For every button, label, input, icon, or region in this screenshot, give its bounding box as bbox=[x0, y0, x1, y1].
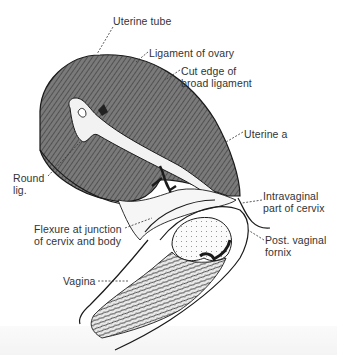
label-flexure: Flexure at junction of cervix and body bbox=[34, 223, 122, 247]
label-ligament-of-ovary: Ligament of ovary bbox=[149, 47, 234, 59]
label-uterine-artery: Uterine a bbox=[244, 128, 288, 140]
label-post-vaginal-fornix: Post. vaginal fornix bbox=[265, 234, 326, 258]
label-cut-edge-broad-ligament: Cut edge of broad ligament bbox=[181, 65, 252, 89]
label-round-ligament: Round lig. bbox=[13, 172, 44, 196]
label-intravaginal-cervix: Intravaginal part of cervix bbox=[263, 190, 325, 214]
anatomy-figure: Uterine tube Ligament of ovary Cut edge … bbox=[0, 0, 337, 355]
label-uterine-tube: Uterine tube bbox=[113, 15, 171, 27]
vagina-rugae bbox=[91, 252, 226, 338]
label-vagina: Vagina bbox=[63, 275, 96, 287]
